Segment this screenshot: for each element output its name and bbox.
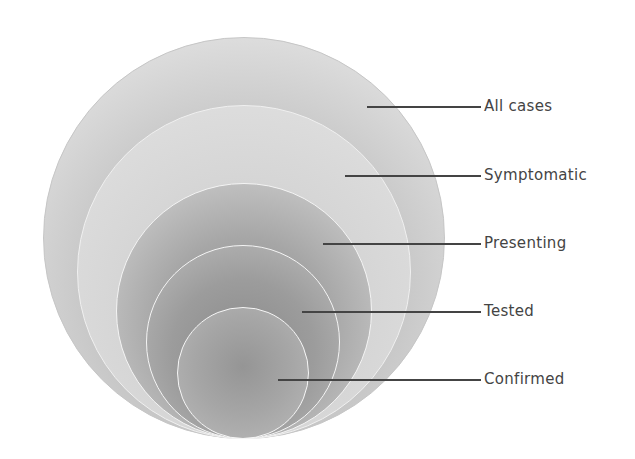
leader-line-presenting	[323, 243, 481, 245]
label-tested: Tested	[484, 302, 534, 320]
nested-circles-diagram: All cases Symptomatic Presenting Tested …	[0, 0, 635, 459]
leader-line-symptomatic	[345, 175, 481, 177]
label-presenting: Presenting	[484, 234, 566, 252]
leader-line-confirmed	[278, 379, 481, 381]
label-all-cases: All cases	[484, 97, 552, 115]
label-symptomatic: Symptomatic	[484, 166, 587, 184]
label-confirmed: Confirmed	[484, 370, 565, 388]
leader-line-all-cases	[367, 106, 481, 108]
circle-confirmed	[177, 307, 309, 439]
leader-line-tested	[302, 311, 481, 313]
